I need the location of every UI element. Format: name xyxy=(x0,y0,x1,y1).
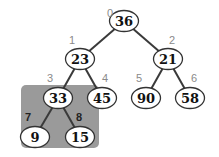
node-index-label: 6 xyxy=(191,72,197,84)
node-value: 9 xyxy=(30,130,39,145)
node-index-label: 7 xyxy=(25,111,31,123)
node-value: 15 xyxy=(71,130,89,145)
node-value: 58 xyxy=(181,91,199,106)
node-index-label: 8 xyxy=(76,111,82,123)
node-index-label: 5 xyxy=(136,72,142,84)
node-index-label: 2 xyxy=(169,34,175,46)
node-value: 33 xyxy=(49,91,67,106)
node-value: 45 xyxy=(93,91,111,106)
node-index-label: 0 xyxy=(107,7,113,19)
tree-node: 454 xyxy=(88,72,117,109)
node-value: 21 xyxy=(159,52,177,67)
tree-node: 360 xyxy=(107,7,139,32)
tree-node: 586 xyxy=(176,72,205,109)
tree-node: 905 xyxy=(132,72,161,109)
node-value: 23 xyxy=(71,52,89,67)
tree-node: 212 xyxy=(154,34,183,70)
tree-node: 333 xyxy=(44,72,73,109)
node-index-label: 1 xyxy=(69,34,75,46)
node-value: 36 xyxy=(115,14,133,29)
node-value: 90 xyxy=(137,91,155,106)
node-index-label: 3 xyxy=(47,72,53,84)
tree-node: 231 xyxy=(66,34,95,70)
heap-tree-diagram: 36023121233345490558697158 xyxy=(0,0,219,157)
node-index-label: 4 xyxy=(102,72,108,84)
